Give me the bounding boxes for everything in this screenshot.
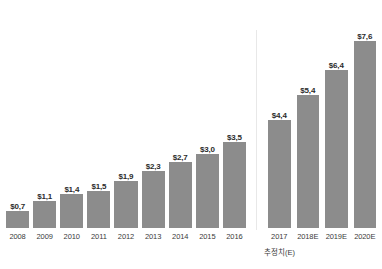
bar-category-label: 2017 [271,232,287,241]
bar-value-label: $1,9 [119,172,134,181]
bar: $5,4 [297,95,320,228]
bar-value-label: $4,4 [272,111,287,120]
bar-value-label: $0,7 [10,202,25,211]
bar-slot: $0,72008 [6,0,29,228]
actual-bars: $0,72008$1,12009$1,42010$1,52011$1,92012… [0,0,250,228]
bar-value-label: $3,0 [200,145,215,154]
bar-slot: $2,32013 [142,0,165,228]
bar: $1,1 [33,201,56,228]
bar-category-label: 2008 [9,232,25,241]
bar-value-label: $6,4 [329,61,344,70]
bar-value-label: $1,1 [37,192,52,201]
bar-value-label: $1,4 [64,185,79,194]
bar-category-label: 2020E [354,232,375,241]
estimate-group-plot: $4,42017$5,42018E$6,42019E$7,62020E [256,0,382,269]
bar-category-label: 2011 [91,232,107,241]
bar: $7,6 [354,41,377,228]
bar-value-label: $5,4 [300,86,315,95]
bar: $4,4 [268,120,291,228]
bar-slot: $1,42010 [60,0,83,228]
bar: $1,4 [60,194,83,228]
bar-category-label: 2009 [37,232,53,241]
bar-slot: $1,12009 [33,0,56,228]
bar-slot: $5,42018E [297,0,320,228]
bar-category-label: 2019E [326,232,347,241]
bar: $2,7 [169,162,192,229]
bar-category-label: 2016 [226,232,242,241]
actual-group-plot: $0,72008$1,12009$1,42010$1,52011$1,92012… [0,0,250,269]
bar-category-label: 2010 [64,232,80,241]
bar-category-label: 2014 [172,232,188,241]
bar-value-label: $3,5 [227,133,242,142]
bar-category-label: 2013 [145,232,161,241]
bar-slot: $1,52011 [87,0,110,228]
bar-chart: $0,72008$1,12009$1,42010$1,52011$1,92012… [0,0,382,269]
bar-category-label: 2015 [199,232,215,241]
bar: $1,5 [87,191,110,228]
bar-value-label: $7,6 [357,32,372,41]
bar-value-label: $2,3 [146,162,161,171]
bar-value-label: $1,5 [91,182,106,191]
bar-slot: $6,42019E [325,0,348,228]
bar: $3,0 [196,154,219,228]
bar: $3,5 [223,142,246,228]
bar: $0,7 [6,211,29,228]
bar-slot: $4,42017 [268,0,291,228]
bar-slot: $7,62020E [354,0,377,228]
bar-slot: $2,72014 [169,0,192,228]
bar-slot: $3,52016 [223,0,246,228]
estimate-bars: $4,42017$5,42018E$6,42019E$7,62020E [256,0,382,228]
bar: $6,4 [325,70,348,228]
bar-category-label: 2012 [118,232,134,241]
bar-value-label: $2,7 [173,153,188,162]
bar: $1,9 [114,181,137,228]
estimate-footnote: 추정치(E) [264,246,295,257]
bar-slot: $3,02015 [196,0,219,228]
bar-slot: $1,92012 [114,0,137,228]
bar: $2,3 [142,171,165,228]
bar-category-label: 2018E [297,232,318,241]
